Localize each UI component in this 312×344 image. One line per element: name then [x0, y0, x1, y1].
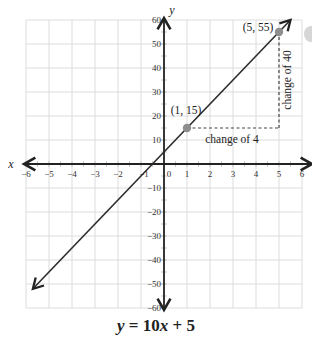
x-tick-label: 4	[254, 169, 259, 179]
decorative-blob	[304, 26, 312, 42]
x-axis-label: x	[7, 157, 14, 171]
run-label: change of 4	[205, 133, 259, 146]
x-tick-label: −3	[90, 169, 100, 179]
equation-mid: = 10	[125, 316, 160, 335]
y-tick-label: 30	[152, 87, 162, 97]
x-tick-label: −2	[113, 169, 123, 179]
y-tick-label: −30	[147, 231, 162, 241]
y-tick-label: −50	[147, 279, 162, 289]
equation-y: y	[117, 316, 125, 335]
data-point-1	[183, 124, 191, 132]
rise-label: change of 40	[281, 50, 294, 110]
y-tick-label: 60	[152, 15, 162, 25]
x-tick-label: −6	[21, 169, 31, 179]
x-tick-label: −4	[67, 169, 77, 179]
y-axis-label: y	[168, 3, 175, 17]
line-chart: xy−6−5−4−3−2−10123456−60−50−40−30−20−101…	[0, 0, 312, 344]
data-point-2	[275, 28, 283, 36]
y-tick-label: −40	[147, 255, 162, 265]
point-label-1-15: (1, 15)	[171, 104, 202, 117]
x-tick-label: 5	[277, 169, 282, 179]
y-tick-label: 20	[152, 111, 162, 121]
y-tick-label: 40	[152, 63, 162, 73]
x-tick-label: 1	[185, 169, 190, 179]
x-tick-label: 6	[300, 169, 305, 179]
y-tick-label: 10	[152, 135, 162, 145]
y-tick-label: −20	[147, 207, 162, 217]
y-tick-label: −10	[147, 183, 162, 193]
point-label-5-55: (5, 55)	[243, 21, 274, 34]
x-tick-label: 3	[231, 169, 236, 179]
equation-caption: y = 10x + 5	[0, 316, 312, 336]
x-tick-label: 0	[167, 169, 172, 179]
y-tick-label: −60	[147, 303, 162, 313]
x-tick-label: 2	[208, 169, 213, 179]
y-tick-label: 50	[152, 39, 162, 49]
equation-x: x	[160, 316, 169, 335]
equation-tail: + 5	[168, 316, 195, 335]
x-tick-label: −5	[44, 169, 54, 179]
